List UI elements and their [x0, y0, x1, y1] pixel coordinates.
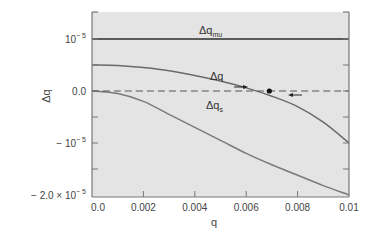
- x-tick-label: 0.008: [285, 202, 310, 213]
- y-axis-label: Δq: [40, 89, 52, 102]
- y-tick-label: 0.0: [72, 86, 86, 97]
- equilibrium-point: [267, 88, 272, 93]
- x-axis-label: q: [211, 216, 217, 228]
- x-tick-label: 0.004: [182, 202, 207, 213]
- x-tick-label: 0.0: [91, 202, 105, 213]
- label--q: Δq: [210, 70, 223, 82]
- y-tick-label: − 10− 5: [56, 136, 86, 149]
- y-tick-label: − 2.0 × 10− 5: [31, 188, 86, 201]
- x-tick-label: 0.006: [234, 202, 259, 213]
- x-tick-label: 0.002: [131, 202, 156, 213]
- x-tick-label: 0.01: [339, 202, 359, 213]
- y-tick-label: 10− 5: [65, 32, 86, 45]
- chart: 0.00.0020.0040.0060.0080.01 10− 50.0− 10…: [0, 0, 371, 240]
